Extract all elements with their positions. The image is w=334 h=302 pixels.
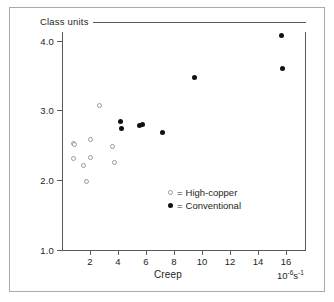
x-tick-label-16: 16 bbox=[281, 256, 292, 267]
data-point-high-copper bbox=[97, 103, 102, 108]
legend-item-conventional: = Conventional bbox=[168, 199, 241, 212]
units-exponent-2: -1 bbox=[298, 269, 304, 276]
data-point-high-copper bbox=[81, 163, 86, 168]
x-axis-line bbox=[62, 250, 306, 251]
x-tick-14 bbox=[258, 250, 259, 255]
data-point-conventional bbox=[119, 126, 124, 131]
x-axis-units-label: 10-6s-1 bbox=[277, 269, 304, 281]
legend-label-conventional: Conventional bbox=[186, 200, 241, 211]
x-tick-10 bbox=[202, 250, 203, 255]
y-tick-label-2: 2.0 bbox=[40, 175, 54, 186]
data-point-conventional bbox=[140, 122, 145, 127]
x-tick-label-4: 4 bbox=[115, 256, 120, 267]
x-tick-label-8: 8 bbox=[171, 256, 176, 267]
y-tick-label-4: 4.0 bbox=[40, 36, 54, 47]
class-units-rule bbox=[93, 22, 306, 23]
x-tick-6 bbox=[146, 250, 147, 255]
x-tick-16 bbox=[286, 250, 287, 255]
x-axis-title: Creep bbox=[154, 269, 182, 280]
data-point-conventional bbox=[118, 119, 123, 124]
open-circle-icon bbox=[168, 190, 173, 195]
x-tick-label-12: 12 bbox=[225, 256, 236, 267]
legend-equals-2: = bbox=[177, 200, 183, 211]
y-tick-2 bbox=[57, 180, 62, 181]
filled-circle-icon bbox=[168, 203, 173, 208]
units-base: 10 bbox=[277, 270, 288, 281]
data-point-high-copper bbox=[71, 156, 76, 161]
x-tick-label-14: 14 bbox=[253, 256, 264, 267]
legend-label-high-copper: High-copper bbox=[186, 187, 238, 198]
x-tick-4 bbox=[118, 250, 119, 255]
legend-item-high-copper: = High-copper bbox=[168, 186, 241, 199]
plot-right-border bbox=[305, 32, 306, 251]
scatter-plot-figure: Class units 4.0 3.0 2.0 1.0 2 4 6 8 10 1… bbox=[0, 0, 334, 302]
y-tick-label-3: 3.0 bbox=[40, 105, 54, 116]
x-tick-8 bbox=[174, 250, 175, 255]
y-tick-label-1: 1.0 bbox=[40, 245, 54, 256]
data-point-high-copper bbox=[88, 155, 93, 160]
legend: = High-copper = Conventional bbox=[168, 186, 241, 212]
data-point-conventional bbox=[192, 75, 197, 80]
legend-equals-1: = bbox=[177, 187, 183, 198]
x-tick-12 bbox=[230, 250, 231, 255]
x-tick-label-10: 10 bbox=[197, 256, 208, 267]
x-tick-label-6: 6 bbox=[143, 256, 148, 267]
y-tick-1 bbox=[57, 250, 62, 251]
x-tick-2 bbox=[90, 250, 91, 255]
y-tick-4 bbox=[57, 41, 62, 42]
y-tick-3 bbox=[57, 110, 62, 111]
y-axis-line bbox=[62, 32, 63, 251]
class-units-label: Class units bbox=[40, 16, 89, 27]
x-tick-label-2: 2 bbox=[87, 256, 92, 267]
